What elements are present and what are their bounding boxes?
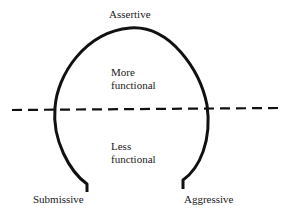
label-functional-upper: functional — [111, 79, 156, 92]
label-more-functional: More functional — [111, 66, 156, 92]
label-submissive: Submissive — [33, 193, 84, 206]
label-aggressive: Aggressive — [184, 193, 234, 206]
label-less-functional: Less functional — [111, 140, 156, 166]
label-functional-lower: functional — [111, 153, 156, 166]
functional-divider-dashed-line — [12, 108, 278, 110]
label-less: Less — [111, 140, 156, 153]
label-more: More — [111, 66, 156, 79]
assertiveness-curve-diagram — [0, 0, 285, 213]
label-assertive: Assertive — [109, 8, 151, 21]
